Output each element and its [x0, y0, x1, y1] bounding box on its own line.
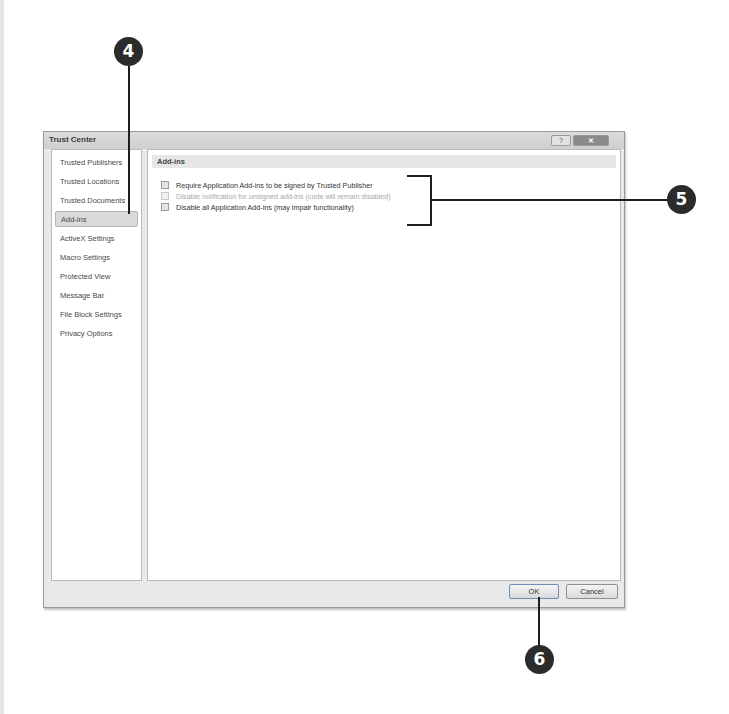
title-bar: Trust Center ? ✕ — [44, 132, 624, 149]
ok-button[interactable]: OK — [509, 584, 559, 599]
close-button[interactable]: ✕ — [573, 135, 609, 146]
nav-item-protected-view[interactable]: Protected View — [55, 269, 138, 285]
page-edge — [0, 0, 4, 714]
callout-4: 4 — [114, 37, 143, 66]
option-disable-notification[interactable]: Disable notification for unsigned add-in… — [161, 190, 391, 201]
option-label: Require Application Add-ins to be signed… — [176, 181, 373, 190]
callout-6: 6 — [525, 645, 554, 674]
cancel-button[interactable]: Cancel — [566, 584, 618, 599]
callout-4-leader-line — [128, 66, 130, 214]
trust-center-dialog: Trust Center ? ✕ Trusted Publishers Trus… — [43, 131, 625, 608]
content-pane: Add-ins Require Application Add-ins to b… — [147, 149, 621, 581]
nav-item-privacy-options[interactable]: Privacy Options — [55, 326, 138, 342]
option-disable-all-addins[interactable]: Disable all Application Add-ins (may imp… — [161, 201, 354, 212]
nav-item-activex-settings[interactable]: ActiveX Settings — [55, 231, 138, 247]
bracket-bottom — [407, 224, 431, 226]
nav-item-trusted-documents[interactable]: Trusted Documents — [55, 193, 138, 209]
bracket-top — [407, 175, 431, 177]
help-icon: ? — [559, 137, 563, 144]
callout-6-leader-line — [538, 597, 540, 647]
option-label: Disable notification for unsigned add-in… — [176, 192, 391, 201]
help-button[interactable]: ? — [551, 135, 571, 146]
option-label: Disable all Application Add-ins (may imp… — [176, 203, 354, 212]
nav-item-trusted-locations[interactable]: Trusted Locations — [55, 174, 138, 190]
checkbox[interactable] — [161, 181, 169, 189]
nav-item-file-block-settings[interactable]: File Block Settings — [55, 307, 138, 323]
checkbox[interactable] — [161, 192, 169, 200]
callout-5-leader-line — [432, 199, 670, 201]
checkbox[interactable] — [161, 203, 169, 211]
option-require-signed[interactable]: Require Application Add-ins to be signed… — [161, 179, 373, 190]
dialog-title: Trust Center — [49, 135, 96, 144]
nav-item-add-ins[interactable]: Add-ins — [55, 211, 138, 227]
close-icon: ✕ — [588, 137, 594, 144]
section-header: Add-ins — [152, 155, 616, 168]
nav-item-trusted-publishers[interactable]: Trusted Publishers — [55, 155, 138, 171]
callout-5: 5 — [667, 185, 696, 214]
nav-item-message-bar[interactable]: Message Bar — [55, 288, 138, 304]
nav-item-macro-settings[interactable]: Macro Settings — [55, 250, 138, 266]
